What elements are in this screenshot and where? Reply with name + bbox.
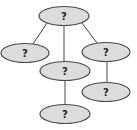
- node-middle: ?: [40, 62, 90, 81]
- edge-root-left: [33, 23, 47, 44]
- node-right-child: ?: [82, 83, 130, 102]
- tree-diagram: ? ? ? ? ? ?: [0, 0, 137, 130]
- node-middle-child: ?: [40, 105, 90, 124]
- node-label: ?: [103, 87, 109, 98]
- node-label: ?: [22, 48, 28, 59]
- node-label: ?: [103, 47, 109, 58]
- node-root: ?: [39, 7, 89, 26]
- node-label: ?: [62, 66, 68, 77]
- node-label: ?: [61, 11, 67, 22]
- node-right: ?: [82, 43, 130, 62]
- node-label: ?: [62, 109, 68, 120]
- edge-root-right: [82, 23, 97, 43]
- node-left: ?: [1, 44, 49, 63]
